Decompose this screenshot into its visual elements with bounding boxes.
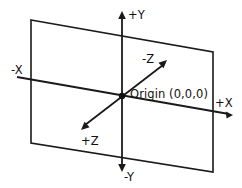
x-positive-arrowhead <box>226 112 233 119</box>
origin-point-marker <box>119 93 125 99</box>
y-negative-axis-label: -Y <box>124 170 135 184</box>
z-positive-axis-label: +Z <box>81 134 99 148</box>
coordinate-system-canvas: +Y -Y +X -X +Z -Z Origin (0,0,0) <box>0 0 242 188</box>
x-positive-axis-label: +X <box>215 96 233 110</box>
y-positive-axis-label: +Y <box>128 8 146 22</box>
origin-text-label: Origin (0,0,0) <box>130 87 208 101</box>
coordinate-system-diagram: +Y -Y +X -X +Z -Z Origin (0,0,0) <box>0 0 242 188</box>
z-negative-axis-label: -Z <box>142 52 154 66</box>
y-positive-arrowhead <box>118 11 126 19</box>
x-negative-axis-label: -X <box>11 63 23 77</box>
